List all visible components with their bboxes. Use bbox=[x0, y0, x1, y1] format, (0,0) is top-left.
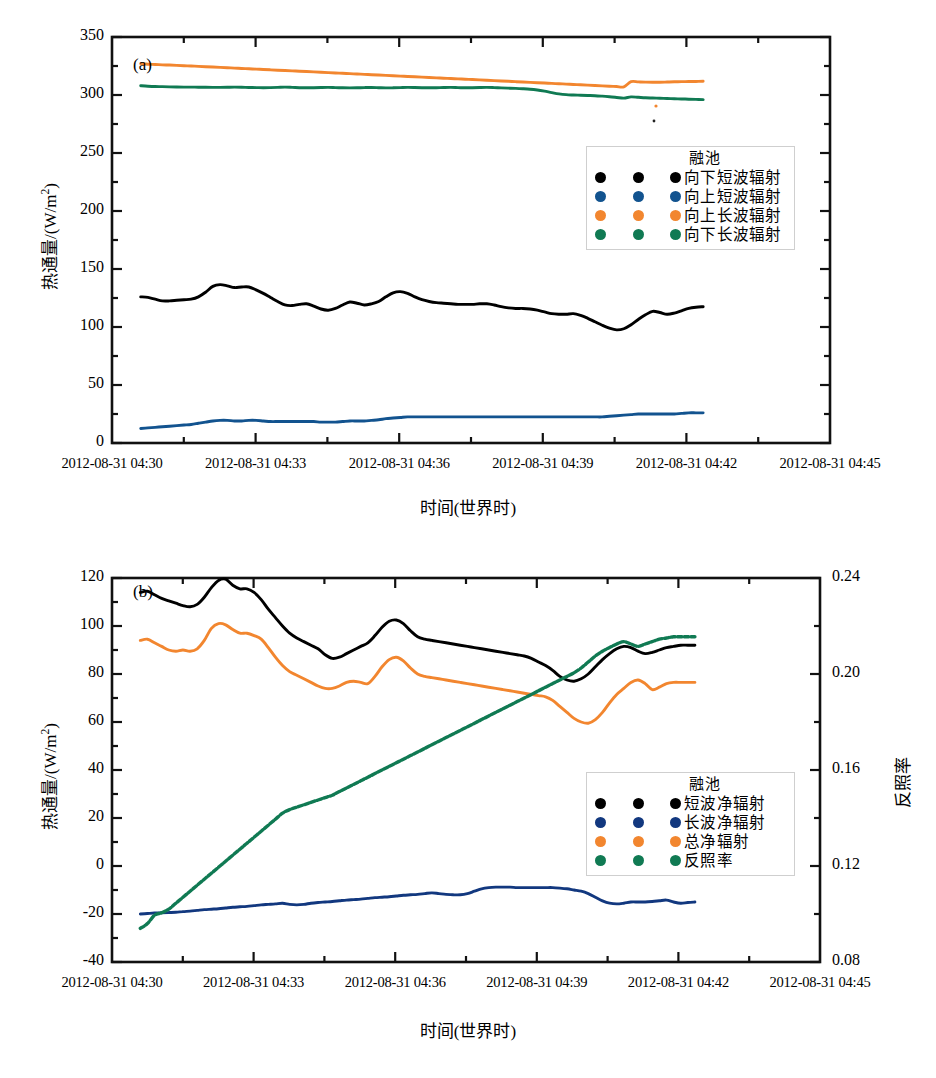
panel-a-series-向上短波辐射 bbox=[141, 413, 703, 429]
legend-dot-icon bbox=[670, 172, 681, 183]
legend-label: 总净辐射 bbox=[684, 834, 749, 850]
panel-b-x-tick-label: 2012-08-31 04:30 bbox=[40, 974, 184, 991]
panel-b-y-tick-label: 100 bbox=[38, 615, 104, 633]
panel-b: (b) 热通量/(W/m2) 反照率 时间(世界时) 融池 短波净辐射长波净辐射… bbox=[0, 540, 936, 1078]
legend-dot-icon bbox=[670, 191, 681, 202]
legend-dot-icon bbox=[633, 836, 644, 847]
legend-marker-a-1 bbox=[595, 191, 681, 202]
panel-b-x-axis-title: 时间(世界时) bbox=[0, 1017, 936, 1042]
legend-dot-icon bbox=[595, 172, 606, 183]
legend-dot-icon bbox=[670, 229, 681, 240]
panel-a-y-tick-label: 150 bbox=[38, 258, 104, 276]
panel-b-x-tick-label: 2012-08-31 04:33 bbox=[182, 974, 326, 991]
legend-label: 向上短波辐射 bbox=[684, 189, 782, 205]
legend-label: 长波净辐射 bbox=[684, 815, 766, 831]
legend-item-a-1: 向上短波辐射 bbox=[595, 187, 784, 206]
panel-b-legend: 融池 短波净辐射长波净辐射总净辐射反照率 bbox=[586, 772, 795, 876]
panel-b-legend-title: 融池 bbox=[625, 777, 784, 793]
legend-item-b-2: 总净辐射 bbox=[595, 832, 784, 851]
panel-b-y-tick-label-right: 0.16 bbox=[832, 759, 860, 777]
panel-a-x-tick-label: 2012-08-31 04:39 bbox=[471, 455, 615, 472]
legend-label: 反照率 bbox=[684, 853, 733, 869]
panel-a: (a) 热通量/(W/m2) 时间(世界时) 融池 向下短波辐射向上短波辐射向上… bbox=[0, 0, 936, 540]
figure-container: (a) 热通量/(W/m2) 时间(世界时) 融池 向下短波辐射向上短波辐射向上… bbox=[0, 0, 936, 1078]
legend-dot-icon bbox=[595, 210, 606, 221]
legend-dot-icon bbox=[595, 855, 606, 866]
panel-b-plot bbox=[0, 540, 936, 1078]
panel-a-legend-rows: 向下短波辐射向上短波辐射向上长波辐射向下长波辐射 bbox=[595, 168, 784, 244]
panel-a-x-tick-label: 2012-08-31 04:45 bbox=[758, 455, 902, 472]
legend-dot-icon bbox=[595, 817, 606, 828]
legend-label: 短波净辐射 bbox=[684, 796, 766, 812]
panel-a-series-向上长波辐射 bbox=[141, 64, 703, 88]
legend-dot-icon bbox=[633, 210, 644, 221]
legend-dot-icon bbox=[595, 229, 606, 240]
panel-b-y-tick-label: 20 bbox=[38, 807, 104, 825]
panel-a-y-tick-label: 300 bbox=[38, 84, 104, 102]
legend-marker-b-1 bbox=[595, 817, 681, 828]
panel-b-y-tick-label-right: 0.08 bbox=[832, 951, 860, 969]
legend-item-b-3: 反照率 bbox=[595, 851, 784, 870]
legend-item-a-3: 向下长波辐射 bbox=[595, 225, 784, 244]
panel-a-y-tick-label: 350 bbox=[38, 26, 104, 44]
panel-b-y-tick-label: 0 bbox=[38, 855, 104, 873]
panel-b-x-tick-label: 2012-08-31 04:45 bbox=[748, 974, 892, 991]
panel-a-x-axis-title: 时间(世界时) bbox=[0, 494, 936, 519]
panel-a-y-tick-label: 100 bbox=[38, 316, 104, 334]
legend-label: 向下长波辐射 bbox=[684, 227, 782, 243]
panel-b-y-axis-right-title: 反照率 bbox=[889, 757, 914, 808]
panel-a-legend: 融池 向下短波辐射向上短波辐射向上长波辐射向下长波辐射 bbox=[586, 146, 795, 250]
panel-a-y-tick-label: 250 bbox=[38, 142, 104, 160]
legend-item-a-0: 向下短波辐射 bbox=[595, 168, 784, 187]
legend-marker-b-0 bbox=[595, 798, 681, 809]
panel-b-y-tick-label: -20 bbox=[38, 903, 104, 921]
panel-b-y-tick-label-right: 0.20 bbox=[832, 663, 860, 681]
legend-label: 向下短波辐射 bbox=[684, 170, 782, 186]
legend-dot-icon bbox=[633, 798, 644, 809]
legend-item-a-2: 向上长波辐射 bbox=[595, 206, 784, 225]
legend-item-b-0: 短波净辐射 bbox=[595, 794, 784, 813]
panel-b-y-tick-label: 120 bbox=[38, 567, 104, 585]
legend-dot-icon bbox=[595, 191, 606, 202]
legend-dot-icon bbox=[633, 229, 644, 240]
panel-a-data-gap-marks bbox=[653, 104, 658, 122]
panel-b-y-tick-label: 40 bbox=[38, 759, 104, 777]
legend-dot-icon bbox=[670, 817, 681, 828]
panel-b-x-tick-label: 2012-08-31 04:39 bbox=[465, 974, 609, 991]
legend-marker-a-3 bbox=[595, 229, 681, 240]
legend-dot-icon bbox=[633, 817, 644, 828]
legend-dot-icon bbox=[633, 191, 644, 202]
panel-b-x-tick-label: 2012-08-31 04:36 bbox=[323, 974, 467, 991]
legend-dot-icon bbox=[670, 210, 681, 221]
legend-dot-icon bbox=[595, 836, 606, 847]
panel-a-y-tick-label: 0 bbox=[38, 432, 104, 450]
legend-dot-icon bbox=[633, 855, 644, 866]
legend-marker-a-2 bbox=[595, 210, 681, 221]
panel-b-x-tick-label: 2012-08-31 04:42 bbox=[606, 974, 750, 991]
panel-b-legend-rows: 短波净辐射长波净辐射总净辐射反照率 bbox=[595, 794, 784, 870]
panel-a-x-tick-label: 2012-08-31 04:42 bbox=[614, 455, 758, 472]
legend-dot-icon bbox=[670, 855, 681, 866]
panel-b-y-tick-label: 80 bbox=[38, 663, 104, 681]
panel-a-legend-title: 融池 bbox=[625, 151, 784, 167]
panel-a-x-tick-label: 2012-08-31 04:30 bbox=[40, 455, 184, 472]
panel-a-y-tick-label: 50 bbox=[38, 374, 104, 392]
panel-b-series-长波净辐射 bbox=[140, 887, 695, 914]
panel-a-x-tick-label: 2012-08-31 04:33 bbox=[184, 455, 328, 472]
legend-label: 向上长波辐射 bbox=[684, 208, 782, 224]
legend-item-b-1: 长波净辐射 bbox=[595, 813, 784, 832]
panel-b-tag: (b) bbox=[133, 582, 153, 602]
legend-marker-b-2 bbox=[595, 836, 681, 847]
panel-b-y-tick-label: 60 bbox=[38, 711, 104, 729]
panel-b-series-短波净辐射 bbox=[140, 579, 695, 681]
panel-b-y-tick-label-right: 0.12 bbox=[832, 855, 860, 873]
legend-marker-a-0 bbox=[595, 172, 681, 183]
panel-b-y-tick-label: -40 bbox=[38, 951, 104, 969]
legend-dot-icon bbox=[595, 798, 606, 809]
legend-dot-icon bbox=[670, 798, 681, 809]
panel-a-tag: (a) bbox=[133, 55, 152, 75]
panel-a-x-tick-label: 2012-08-31 04:36 bbox=[327, 455, 471, 472]
legend-dot-icon bbox=[633, 172, 644, 183]
panel-a-series-向下短波辐射 bbox=[141, 285, 703, 330]
legend-dot-icon bbox=[670, 836, 681, 847]
